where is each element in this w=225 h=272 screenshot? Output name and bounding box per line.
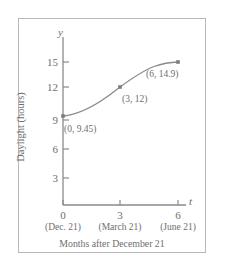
y-axis-symbol: y	[58, 27, 63, 38]
y-tick-label-3: 3	[36, 173, 58, 184]
point-label-2: (6, 14.9)	[146, 70, 178, 80]
point-label-1: (3, 12)	[122, 95, 147, 105]
y-axis-title-wrapper: Daylight (hours)	[10, 72, 28, 182]
y-axis-title: Daylight (hours)	[15, 92, 26, 162]
point-label-0: (0, 9.45)	[64, 125, 96, 135]
x-axis-symbol: t	[189, 196, 192, 207]
x-sublabel-june: (June 21)	[143, 223, 213, 233]
data-point-0	[61, 114, 65, 118]
y-tick-label-9: 9	[36, 115, 58, 126]
x-axis-title: Months after December 21	[18, 238, 206, 249]
data-point-1	[118, 85, 122, 89]
y-tick-label-12: 12	[36, 82, 58, 93]
figure: y t 15 12 9 6 3 0 3 6 (0, 9.45) (3, 12) …	[0, 0, 225, 272]
y-tick-label-15: 15	[36, 57, 58, 68]
x-tick-label-6: 6	[167, 210, 189, 221]
y-tick-label-6: 6	[36, 144, 58, 155]
x-tick-label-3: 3	[109, 210, 131, 221]
x-tick-label-0: 0	[52, 210, 74, 221]
data-point-2	[176, 60, 180, 64]
